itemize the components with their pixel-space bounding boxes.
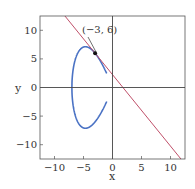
y-tick-label: 5 xyxy=(31,53,37,64)
x-tick-label: −5 xyxy=(76,162,91,173)
x-tick-label: 10 xyxy=(164,162,177,173)
plot: −10−50510−10−50510 x y (−3, 6) xyxy=(0,0,195,189)
tangent-point xyxy=(93,51,97,55)
curve-lower xyxy=(72,88,107,129)
x-tick-label: 5 xyxy=(138,162,144,173)
y-tick-label: −5 xyxy=(22,111,37,122)
y-tick-label: 10 xyxy=(24,25,37,36)
x-axis-label: x xyxy=(109,170,116,183)
point-annotation: (−3, 6) xyxy=(82,24,117,35)
x-tick-label: −10 xyxy=(44,162,65,173)
curve-upper xyxy=(72,47,107,88)
y-tick-label: 0 xyxy=(31,82,37,93)
y-axis-label: y xyxy=(14,82,22,95)
y-tick-label: −10 xyxy=(16,139,37,150)
